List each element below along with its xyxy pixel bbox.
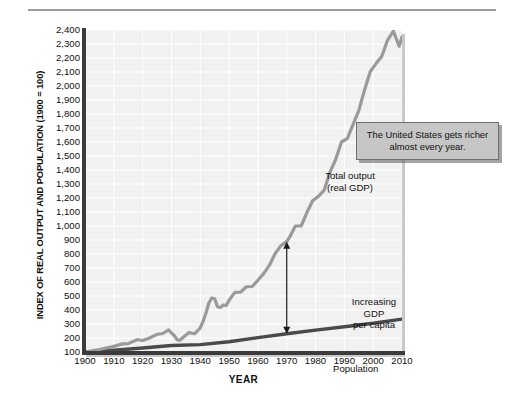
y-tick-label: 500 — [64, 291, 80, 301]
x-axis-title: YEAR — [85, 374, 402, 385]
y-tick-label: 600 — [64, 277, 80, 287]
x-tick-label: 1910 — [103, 356, 124, 366]
total-output-label: Total output (real GDP) — [307, 170, 393, 193]
x-axis-line — [82, 351, 405, 355]
y-tick-label: 1,400 — [56, 165, 80, 175]
y-tick-label: 2,000 — [56, 81, 80, 91]
y-tick-label: 200 — [64, 333, 80, 343]
y-tick-label: 2,300 — [56, 39, 80, 49]
y-tick-label: 1,900 — [56, 95, 80, 105]
x-tick-label: 2000 — [363, 356, 384, 366]
y-tick-label: 1,300 — [56, 179, 80, 189]
figure-container: INDEX OF REAL OUTPUT AND POPULATION (190… — [0, 0, 511, 396]
increasing-gdp-label-line2: GDP — [364, 308, 385, 319]
callout-text: The United States gets richer almost eve… — [357, 129, 498, 153]
y-tick-label: 700 — [64, 263, 80, 273]
y-tick-label: 1,500 — [56, 151, 80, 161]
callout-box: The United States gets richer almost eve… — [356, 122, 499, 160]
x-tick-label: 1940 — [190, 356, 211, 366]
y-tick-label: 2,200 — [56, 53, 80, 63]
x-tick-label: 1950 — [218, 356, 239, 366]
x-tick-label: 1900 — [74, 356, 95, 366]
y-axis-tick-labels: 1002003004005006007008009001,0001,1001,2… — [36, 30, 80, 352]
y-tick-label: 1,000 — [56, 221, 80, 231]
x-tick-label: 1960 — [247, 356, 268, 366]
x-tick-label: 1920 — [132, 356, 153, 366]
y-tick-label: 2,100 — [56, 67, 80, 77]
y-tick-label: 900 — [64, 235, 80, 245]
y-tick-label: 1,100 — [56, 207, 80, 217]
total-output-label-line1: Total output — [325, 170, 375, 181]
y-axis-line — [82, 28, 86, 354]
y-tick-label: 1,600 — [56, 137, 80, 147]
plot-area: Total output (real GDP) Increasing GDP p… — [85, 30, 402, 352]
y-tick-label: 1,700 — [56, 123, 80, 133]
y-tick-label: 400 — [64, 305, 80, 315]
y-tick-label: 300 — [64, 319, 80, 329]
increasing-gdp-label-line1: Increasing — [352, 296, 396, 307]
x-tick-label: 1990 — [334, 356, 355, 366]
x-tick-label: 1970 — [276, 356, 297, 366]
plot-right-shadow — [402, 34, 405, 354]
x-tick-label: 2010 — [391, 356, 412, 366]
x-tick-label: 1980 — [305, 356, 326, 366]
increasing-gdp-label-line3: per capita — [353, 319, 395, 330]
y-tick-label: 2,400 — [56, 25, 80, 35]
x-tick-label: 1930 — [161, 356, 182, 366]
total-output-label-line2: (real GDP) — [327, 182, 373, 193]
x-axis-tick-labels: 1900191019201930194019501960197019801990… — [85, 356, 402, 372]
increasing-gdp-per-capita-arrow — [283, 242, 290, 334]
y-tick-label: 1,200 — [56, 193, 80, 203]
y-tick-label: 800 — [64, 249, 80, 259]
y-tick-label: 1,800 — [56, 109, 80, 119]
top-rule-divider — [28, 9, 496, 11]
